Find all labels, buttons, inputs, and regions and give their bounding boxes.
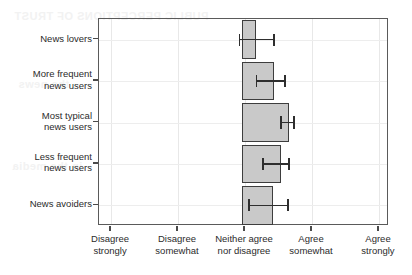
error-bar-cap-high	[288, 158, 290, 170]
y-axis-category-label: Most typical news users	[4, 110, 92, 133]
error-bar-cap-high	[284, 75, 286, 87]
gridline-vertical	[312, 19, 313, 224]
error-bar-line	[240, 39, 274, 41]
y-axis-tick	[93, 162, 98, 163]
error-bar-line	[263, 163, 289, 165]
y-axis-category-label: News lovers	[4, 33, 92, 45]
gridline-vertical	[111, 19, 112, 224]
plot-area	[98, 18, 388, 225]
y-axis-category-label: News avoiders	[4, 198, 92, 210]
error-bar-cap-high	[287, 199, 289, 211]
x-axis-tick	[243, 226, 244, 231]
gridline-vertical	[379, 19, 380, 224]
y-axis-tick	[93, 121, 98, 122]
error-bar-line	[256, 80, 285, 82]
error-bar-cap-low	[248, 199, 250, 211]
error-bar-cap-high	[273, 34, 275, 46]
error-bar-cap-low	[280, 116, 282, 128]
y-axis-tick	[93, 204, 98, 205]
error-bar-line	[249, 205, 288, 207]
error-bar-cap-low	[256, 75, 258, 87]
y-axis-category-label: More frequent news users	[4, 68, 92, 91]
chart-figure: PUBLIC PERCEPTIONS OF TRUST the news in …	[0, 0, 412, 275]
x-axis-tick	[310, 226, 311, 231]
error-bar-cap-high	[293, 116, 295, 128]
y-axis-category-label: Less frequent news users	[4, 151, 92, 174]
x-axis-tick	[377, 226, 378, 231]
y-axis-tick	[93, 38, 98, 39]
error-bar-line	[281, 122, 294, 124]
x-axis-tick-label: Agree strongly	[333, 233, 412, 256]
error-bar-cap-low	[239, 34, 241, 46]
x-axis-tick	[109, 226, 110, 231]
x-axis-tick	[176, 226, 177, 231]
y-axis-tick	[93, 79, 98, 80]
error-bar-cap-low	[262, 158, 264, 170]
gridline-vertical	[178, 19, 179, 224]
